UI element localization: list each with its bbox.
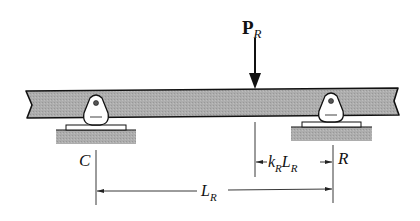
dimension-span: LR	[97, 182, 332, 203]
dimension-label-load-offset: kRLR	[268, 153, 298, 174]
load-label: PR	[242, 17, 262, 41]
pin-right-icon	[329, 99, 334, 104]
ground-block-left	[56, 130, 136, 144]
beam-diagram: PR C R kRLR LR	[0, 0, 420, 221]
pin-left-icon	[94, 101, 99, 106]
support-label-c: C	[79, 151, 91, 170]
bearing-plate-left	[66, 125, 126, 130]
dimension-label-span: LR	[200, 182, 217, 203]
arrow-down-icon	[249, 73, 261, 89]
load-arrow	[249, 38, 261, 89]
dimension-load-offset: kRLR	[256, 153, 332, 174]
bearing-plate-right	[302, 122, 361, 127]
ground-block-right	[291, 127, 372, 141]
support-label-r: R	[337, 149, 349, 168]
